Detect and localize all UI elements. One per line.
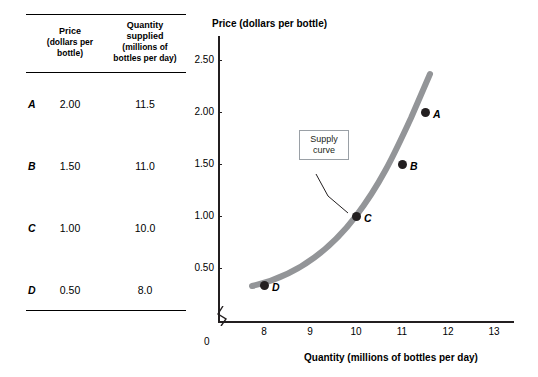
data-point-b <box>398 160 407 169</box>
table-cell-quantity-a: 11.5 <box>110 98 180 110</box>
table-row-label-d: D <box>28 284 36 296</box>
table-cell-price-d: 0.50 <box>44 284 96 296</box>
table-rule-middle <box>26 72 186 73</box>
supply-curve-callout: Supply curve <box>299 130 349 160</box>
data-point-d <box>260 281 269 290</box>
callout-line1: Supply <box>302 134 346 145</box>
table-cell-price-b: 1.50 <box>44 160 96 172</box>
table-header-quantity-line1: Quantity <box>110 20 180 31</box>
table-header-quantity-line4: bottles per day) <box>110 53 180 64</box>
table-row-label-c: C <box>28 222 36 234</box>
table-header-quantity: Quantity supplied (millions of bottles p… <box>110 20 180 64</box>
table-rule-bottom <box>26 310 186 311</box>
supply-curve-chart: Price (dollars per bottle) Quantity (mil… <box>196 0 538 377</box>
data-point-label-b: B <box>410 160 418 172</box>
table-header-quantity-line3: (millions of <box>110 42 180 53</box>
table-cell-quantity-c: 10.0 <box>110 222 180 234</box>
supply-curve-line <box>196 0 538 377</box>
table-row-label-a: A <box>28 98 36 110</box>
data-point-label-c: C <box>364 212 372 224</box>
data-point-a <box>421 108 430 117</box>
table-row-label-b: B <box>28 160 36 172</box>
table-header-quantity-line2: supplied <box>110 31 180 42</box>
table-rule-top <box>26 14 186 15</box>
supply-schedule-table: Price (dollars per bottle) Quantity supp… <box>26 14 186 314</box>
table-header-price-line3: bottle) <box>44 48 96 59</box>
data-point-label-d: D <box>272 281 280 293</box>
table-cell-price-c: 1.00 <box>44 222 96 234</box>
table-cell-price-a: 2.00 <box>44 98 96 110</box>
table-cell-quantity-b: 11.0 <box>110 160 180 172</box>
table-header-price-line2: (dollars per <box>44 37 96 48</box>
data-point-label-a: A <box>433 108 441 120</box>
table-cell-quantity-d: 8.0 <box>110 284 180 296</box>
callout-line2: curve <box>302 145 346 156</box>
table-header-price: Price (dollars per bottle) <box>44 26 96 59</box>
data-point-c <box>352 212 361 221</box>
table-header-price-line1: Price <box>44 26 96 37</box>
